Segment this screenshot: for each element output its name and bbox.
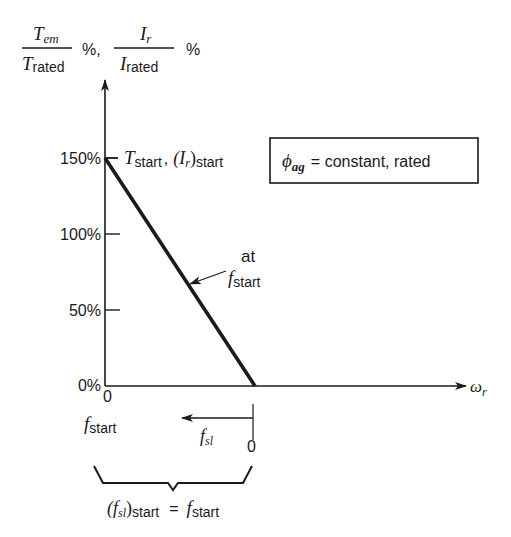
brace-label: (fsl)start=fstart bbox=[107, 497, 219, 520]
y-axis-label: Tem Trated %, Ir Irated % bbox=[22, 23, 200, 75]
percent-label-2: % bbox=[186, 41, 200, 58]
line-label-fstart: fstart bbox=[228, 267, 261, 290]
f-sl-label: fsl bbox=[200, 426, 214, 448]
y-tick-0: 0% bbox=[78, 377, 101, 394]
svg-text:Ir: Ir bbox=[139, 23, 152, 46]
line-label-at: at bbox=[241, 247, 255, 266]
x-origin-label: 0 bbox=[103, 388, 112, 405]
current-numerator-sub: r bbox=[146, 31, 152, 46]
y-tick-50: 50% bbox=[69, 302, 101, 319]
svg-text:Trated: Trated bbox=[22, 53, 65, 75]
line-label-arrow bbox=[190, 271, 226, 284]
current-denominator-sub: rated bbox=[126, 59, 158, 75]
torque-numerator-sub: em bbox=[44, 31, 59, 46]
f-start-label: fstart bbox=[84, 413, 117, 436]
condition-text: ϕag= constant, rated bbox=[282, 150, 430, 174]
svg-text:Irated: Irated bbox=[119, 53, 158, 75]
svg-text:Tem: Tem bbox=[33, 23, 59, 46]
y-tick-100: 100% bbox=[60, 226, 101, 243]
percent-label-1: %, bbox=[82, 41, 101, 58]
speed-torque-diagram: Tem Trated %, Ir Irated % 150% 100% 50% … bbox=[0, 0, 511, 537]
y-ticks: 150% 100% 50% 0% bbox=[60, 150, 120, 394]
zero-slip-label: 0 bbox=[247, 438, 256, 455]
torque-denominator-sub: rated bbox=[33, 59, 65, 75]
range-brace bbox=[94, 466, 252, 490]
y-tick-150: 150% bbox=[60, 150, 101, 167]
x-axis-label: ωr bbox=[470, 377, 487, 399]
start-point-label: Tstart,(Ir)start bbox=[124, 147, 223, 170]
